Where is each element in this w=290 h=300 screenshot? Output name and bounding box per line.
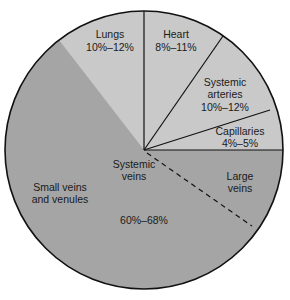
label-small-veins-name1: Small veins — [33, 181, 87, 193]
label-large-veins-name1: Large — [227, 170, 254, 182]
label-systemic-veins-value: 60%–68% — [120, 214, 168, 226]
label-heart-value: 8%–11% — [155, 41, 196, 53]
label-systemic-veins-name1: Systemic — [113, 158, 156, 170]
label-lungs-value: 10%–12% — [86, 41, 134, 53]
label-heart-name: Heart — [163, 28, 189, 40]
label-capillaries-value: 4%–5% — [222, 137, 258, 149]
label-arteries-value: 10%–12% — [201, 101, 249, 113]
label-small-veins-name2: and venules — [32, 193, 89, 205]
label-lungs-name: Lungs — [96, 28, 125, 40]
label-large-veins-name2: veins — [228, 182, 253, 194]
label-systemic-veins-name2: veins — [122, 170, 147, 182]
label-arteries-name2: arteries — [207, 88, 242, 100]
blood-volume-pie-chart: Lungs 10%–12% Heart 8%–11% Systemic arte… — [0, 0, 290, 300]
label-capillaries-name: Capillaries — [215, 125, 264, 137]
label-arteries-name1: Systemic — [204, 76, 247, 88]
